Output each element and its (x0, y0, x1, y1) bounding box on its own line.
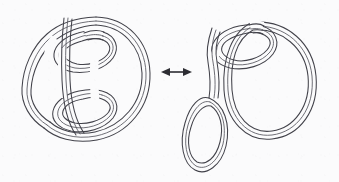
outer-large-oval (224, 22, 317, 139)
pendant-small-oval (182, 97, 227, 171)
figure-canvas (0, 0, 339, 182)
knot-isotopy-figure (0, 0, 339, 182)
left-knot-diagram (22, 17, 150, 141)
double-headed-equivalence-arrow (161, 68, 192, 76)
left-crossing-overlaps (84, 31, 104, 40)
right-knot-diagram (182, 22, 316, 172)
